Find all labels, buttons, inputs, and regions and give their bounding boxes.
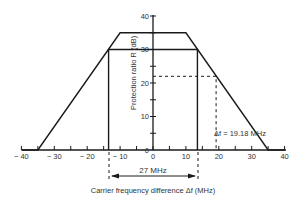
series-line [153, 76, 216, 150]
x-tick-label: − 20 [80, 152, 95, 161]
y-tick-label: 0 [145, 146, 149, 155]
x-tick-label: − 30 [47, 152, 62, 161]
bandwidth-label: 27 MHz [139, 166, 167, 175]
y-tick-label: 20 [141, 79, 149, 88]
y-tick-label: 10 [141, 112, 149, 121]
x-tick-label: 10 [182, 152, 190, 161]
x-tick-label: 30 [248, 152, 256, 161]
protection-ratio-chart: − 40− 30− 20− 10010203040 010203040 27 M… [0, 0, 303, 198]
x-tick-label: − 10 [113, 152, 128, 161]
x-tick-label: 20 [215, 152, 223, 161]
x-ticks: − 40− 30− 20− 10010203040 [14, 146, 289, 161]
y-tick-label: 40 [141, 12, 149, 21]
x-tick-label: 40 [280, 152, 288, 161]
x-tick-label: − 40 [14, 152, 29, 161]
delta-f-annotation: Δf = 19.18 MHz [214, 129, 266, 138]
y-axis-label: Protection ratio R (dB) [129, 35, 138, 110]
x-tick-label: 0 [151, 152, 155, 161]
x-axis-label: Carrier frequency difference Δf (MHz) [91, 186, 216, 195]
